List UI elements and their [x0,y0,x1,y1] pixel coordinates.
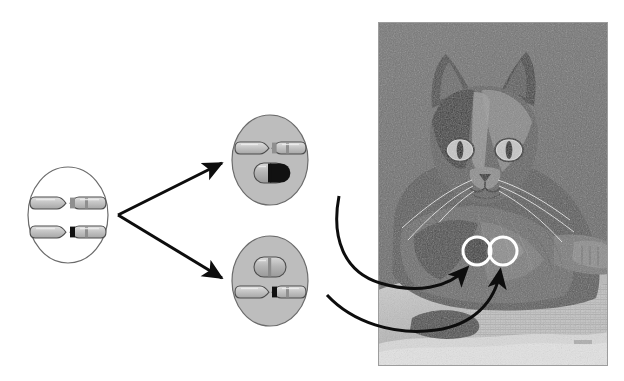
coat-patch-highlights [463,237,517,265]
parent-cell-membrane [28,167,108,263]
diagram-layer [0,0,624,381]
trace-arrow-lower-patch [327,272,500,331]
chromosome-band [70,198,75,209]
chromosome-band [272,143,277,154]
inactivated-x-barr-body-lower [254,257,286,277]
daughter-cell-lower-membrane [232,236,308,326]
daughter-cell-upper-membrane [232,115,308,205]
inactivated-x-barr-body-upper [254,163,290,183]
chromosome-band [70,227,75,238]
division-arrows [118,163,222,278]
daughter-cell-lower [232,236,308,326]
chromosome-band [272,287,277,298]
parent-cell [28,167,108,263]
daughter-cell-upper [232,115,308,205]
division-arrow-lower [118,215,222,278]
division-arrow-upper [118,163,222,215]
x-inactivation-figure: X-chromosome inactivation in a tortoises… [0,0,624,381]
coat-patch-highlight-left [463,237,491,265]
trace-arrow-upper-patch [337,196,466,288]
coat-patch-highlight-right [489,237,517,265]
